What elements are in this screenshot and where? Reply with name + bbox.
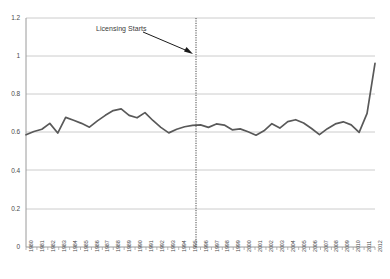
xtick-label-1995: 1995 [192,240,198,252]
xtick-label-2011: 2011 [366,241,372,252]
xtick-label-1983: 1983 [61,240,67,252]
xtick-label-2010: 2010 [355,240,361,252]
xtick-label-1997: 1997 [214,240,220,252]
xtick-label-2006: 2006 [312,240,318,252]
xtick-label-1987: 1987 [104,240,110,252]
xtick-label-2007: 2007 [323,240,329,252]
annotation-arrow-icon [143,32,193,54]
xtick-label-1994: 1994 [181,240,187,252]
xtick-label-1982: 1982 [50,240,56,252]
data-series-line [26,63,375,135]
xtick-label-1993: 1993 [170,240,176,252]
xtick-label-2003: 2003 [279,240,285,252]
xtick-label-1988: 1988 [115,240,121,252]
xtick-label-2000: 2000 [246,240,252,252]
xtick-label-2005: 2005 [301,240,307,252]
xtick-label-1989: 1989 [126,240,132,252]
xtick-label-1991: 1991 [148,240,154,252]
xtick-label-1992: 1992 [159,240,165,252]
xtick-label-2009: 2009 [344,240,350,252]
gridlines-horizontal [26,18,375,209]
xtick-label-2001: 2001 [257,240,263,252]
chart-canvas [0,0,390,279]
xtick-label-2004: 2004 [290,240,296,252]
xtick-label-1986: 1986 [94,240,100,252]
line-chart: 1.2 1 0.8 0.6 0.4 0.2 0 Licensing Starts [0,0,390,279]
xtick-label-1981: 1981 [39,240,45,252]
xtick-label-2012: 2012 [377,240,383,252]
xtick-label-1990: 1990 [137,240,143,252]
xtick-label-1999: 1999 [235,240,241,252]
xtick-label-2008: 2008 [333,240,339,252]
xtick-label-1998: 1998 [224,240,230,252]
xtick-label-1980: 1980 [28,240,34,252]
xtick-label-1985: 1985 [83,240,89,252]
xtick-label-2002: 2002 [268,240,274,252]
xtick-label-1996: 1996 [203,240,209,252]
xtick-label-1984: 1984 [72,240,78,252]
